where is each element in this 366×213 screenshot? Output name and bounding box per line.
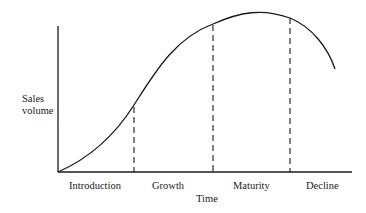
x-axis-label: Time [196, 193, 218, 205]
stage-label-introduction: Introduction [69, 180, 121, 192]
y-axis-label: Sales volume [22, 93, 54, 117]
stage-label-decline: Decline [306, 180, 339, 192]
stage-label-growth: Growth [152, 180, 184, 192]
y-axis-label-line1: Sales [22, 93, 54, 105]
sales-curve [58, 12, 335, 172]
y-axis-label-line2: volume [22, 105, 54, 117]
stage-label-maturity: Maturity [233, 180, 270, 192]
